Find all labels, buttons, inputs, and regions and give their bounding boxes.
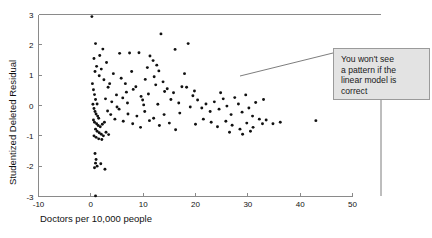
data-point <box>218 108 221 111</box>
data-point <box>112 72 115 75</box>
x-axis-tick-label: 40 <box>296 200 305 209</box>
data-point <box>252 126 255 129</box>
data-point <box>146 66 149 69</box>
data-point <box>106 110 109 113</box>
x-axis-tick-label: 0 <box>89 200 94 209</box>
data-point <box>191 94 194 97</box>
data-point <box>279 121 282 124</box>
data-point <box>213 100 216 103</box>
data-point <box>109 113 112 116</box>
data-point <box>185 86 188 89</box>
data-point <box>239 128 242 131</box>
data-point <box>174 128 177 131</box>
data-point <box>219 91 222 94</box>
data-point <box>231 124 234 127</box>
data-point <box>139 126 142 129</box>
data-point <box>92 88 95 91</box>
x-axis-tick-label: 50 <box>348 200 357 209</box>
axes-group: -1001020304050-3-2-10123 <box>26 11 381 209</box>
data-point <box>102 134 105 137</box>
data-point <box>148 119 151 122</box>
x-axis-title: Doctors per 10,000 people <box>40 213 152 224</box>
leader-line-path <box>240 53 333 76</box>
data-point <box>189 106 192 109</box>
data-point <box>95 65 98 68</box>
data-point <box>113 118 116 121</box>
x-axis-tick-label: 10 <box>139 200 148 209</box>
data-point <box>166 87 169 90</box>
data-point <box>99 162 102 165</box>
data-point <box>94 70 97 73</box>
data-point <box>314 119 317 122</box>
data-point <box>131 122 134 125</box>
annotation-callout: You won't see a pattern if the linear mo… <box>333 48 430 100</box>
data-point <box>168 122 171 125</box>
y-axis-tick-label: 1 <box>29 71 34 80</box>
data-point <box>233 96 236 99</box>
data-point <box>249 130 252 133</box>
data-point <box>95 158 98 161</box>
y-axis-tick-label: -3 <box>26 193 34 202</box>
data-point <box>105 131 108 134</box>
plot-canvas: -1001020304050-3-2-10123 Doctors per 10,… <box>0 0 432 238</box>
data-point <box>105 61 108 64</box>
data-point <box>93 93 96 96</box>
data-point <box>97 137 100 140</box>
data-point <box>120 77 123 80</box>
annotation-text: You won't see a pattern if the linear mo… <box>341 54 423 96</box>
data-point <box>125 91 128 94</box>
data-point <box>241 133 244 136</box>
data-point <box>94 42 97 45</box>
data-point <box>224 120 227 123</box>
data-point <box>156 103 159 106</box>
data-point <box>209 110 212 113</box>
data-point <box>262 98 265 101</box>
data-point <box>94 98 97 101</box>
data-point <box>193 89 196 92</box>
data-point <box>244 93 247 96</box>
data-point <box>149 55 152 58</box>
data-point <box>91 82 94 85</box>
data-point <box>228 131 231 134</box>
data-point <box>194 123 197 126</box>
data-point <box>187 42 190 45</box>
data-point <box>157 69 160 72</box>
data-point <box>230 113 233 116</box>
data-point <box>254 101 257 104</box>
data-point <box>140 95 143 98</box>
data-point <box>155 64 158 67</box>
scatter-plot-figure: -1001020304050-3-2-10123 Doctors per 10,… <box>0 0 432 238</box>
data-point <box>153 75 156 78</box>
data-point <box>93 107 96 110</box>
y-axis-tick-label: 3 <box>29 11 34 20</box>
data-point <box>225 105 228 108</box>
data-point <box>143 110 146 113</box>
data-points-group <box>90 15 317 197</box>
data-point <box>142 103 145 106</box>
data-point <box>202 118 205 121</box>
data-point <box>160 32 163 35</box>
data-point <box>108 82 111 85</box>
data-point <box>115 93 118 96</box>
data-point <box>237 103 240 106</box>
data-point <box>144 78 147 81</box>
data-point <box>272 122 275 125</box>
data-point <box>100 138 103 141</box>
data-point <box>124 82 127 85</box>
data-point <box>196 99 199 102</box>
data-point <box>118 52 121 55</box>
data-point <box>101 123 104 126</box>
y-axis-tick-label: 0 <box>29 102 34 111</box>
data-point <box>90 15 93 18</box>
data-point <box>158 124 161 127</box>
data-point <box>98 54 101 57</box>
data-point <box>96 165 99 168</box>
data-point <box>152 117 155 120</box>
data-point <box>96 103 99 106</box>
data-point <box>101 48 104 51</box>
x-axis-tick-label: -10 <box>33 200 45 209</box>
data-point <box>200 106 203 109</box>
data-point <box>247 106 250 109</box>
data-point <box>141 99 144 102</box>
data-point <box>91 103 94 106</box>
